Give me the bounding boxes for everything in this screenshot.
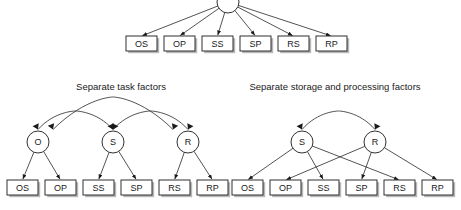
observed-node-rp[interactable]: RP (197, 180, 230, 197)
loading-arrow-R-to-RS (175, 152, 184, 179)
observed-node-label: SP (355, 183, 367, 193)
correlation-arrowhead-O (48, 123, 56, 131)
factor-model-diagram: OSOPSSSPRSRPOSOPSSSPRSRPOSROSOPSSSPRSRPS… (0, 0, 461, 210)
latent-node-label: R (372, 137, 379, 147)
loading-arrow-g-to-RS (238, 7, 293, 35)
latent-node-label: S (299, 137, 305, 147)
latent-node-label: O (34, 137, 41, 147)
observed-node-label: OP (173, 39, 186, 49)
observed-node-label: SS (92, 183, 104, 193)
loading-arrow-S-to-OS (248, 148, 293, 179)
title-layer: Separate task factorsSeparate storage an… (76, 81, 421, 92)
observed-node-rs[interactable]: RS (278, 36, 311, 53)
observed-node-label: OS (16, 183, 29, 193)
observed-node-label: RS (287, 39, 300, 49)
observed-node-label: OS (241, 183, 254, 193)
loading-arrow-R-to-RP (384, 148, 436, 180)
observed-node-os[interactable]: OS (7, 180, 40, 197)
observed-node-sp[interactable]: SP (240, 36, 273, 53)
observed-node-label: SS (317, 183, 329, 193)
observed-node-label: OP (54, 183, 67, 193)
loading-arrow-O-to-OP (44, 151, 60, 179)
correlation-arc-S-R-right (339, 111, 376, 130)
observed-node-rs[interactable]: RS (384, 180, 417, 197)
correlation-arc-S-R-left (113, 111, 151, 130)
loading-arrow-S-to-SS (99, 152, 109, 179)
observed-node-sp[interactable]: SP (346, 180, 379, 197)
observed-node-label: SP (130, 183, 142, 193)
observed-node-label: OP (279, 183, 292, 193)
loading-arrow-g-to-OS (142, 6, 217, 36)
loading-arrow-g-to-SS (218, 13, 225, 36)
observed-node-label: RP (206, 183, 219, 193)
observed-node-ss[interactable]: SS (308, 180, 341, 197)
observed-node-rs[interactable]: RS (159, 180, 192, 197)
loading-arrow-g-to-OP (180, 8, 219, 35)
loading-arrow-S-to-SP (119, 151, 136, 179)
observed-node-label: SS (211, 39, 223, 49)
loading-arrow-O-to-OS (23, 152, 34, 179)
observed-node-label: RP (325, 39, 338, 49)
correlation-arc-O-S-left (38, 111, 76, 130)
correlation-arc-S-R-right (151, 111, 189, 130)
observed-node-label: RS (393, 183, 406, 193)
observed-node-os[interactable]: OS (232, 180, 265, 197)
panel-title-bottom-left: Separate task factors (76, 81, 166, 92)
observed-node-label: SP (249, 39, 261, 49)
observed-node-op[interactable]: OP (164, 36, 197, 53)
latent-node-r[interactable]: R (177, 131, 199, 153)
observed-node-label: OS (135, 39, 148, 49)
observed-node-rp[interactable]: RP (316, 36, 349, 53)
latent-node-label: S (110, 137, 116, 147)
loading-arrow-R-to-RP (194, 151, 212, 179)
node-layer: OSOPSSSPRSRPOSOPSSSPRSRPOSROSOPSSSPRSRPS… (7, 0, 455, 197)
observed-node-label: RP (431, 183, 444, 193)
latent-node-s[interactable]: S (291, 131, 313, 153)
observed-node-label: RS (168, 183, 181, 193)
observed-node-os[interactable]: OS (126, 36, 159, 53)
path-layer (23, 5, 437, 179)
observed-node-rp[interactable]: RP (422, 180, 455, 197)
panel-title-bottom-right: Separate storage and processing factors (249, 81, 420, 92)
latent-node-o[interactable]: O (27, 131, 49, 153)
observed-node-op[interactable]: OP (45, 180, 78, 197)
correlation-arc-S-R-left (302, 111, 339, 130)
observed-node-ss[interactable]: SS (202, 36, 235, 53)
diagram-canvas: OSOPSSSPRSRPOSOPSSSPRSRPOSROSOPSSSPRSRPS… (0, 0, 461, 210)
latent-node-r[interactable]: R (364, 131, 386, 153)
observed-node-ss[interactable]: SS (83, 180, 116, 197)
correlation-arc-O-S-right (76, 111, 114, 130)
observed-node-sp[interactable]: SP (121, 180, 154, 197)
latent-node-s[interactable]: S (102, 131, 124, 153)
latent-node-label: R (185, 137, 192, 147)
observed-node-op[interactable]: OP (270, 180, 303, 197)
correlation-arrowhead-R (170, 123, 178, 131)
